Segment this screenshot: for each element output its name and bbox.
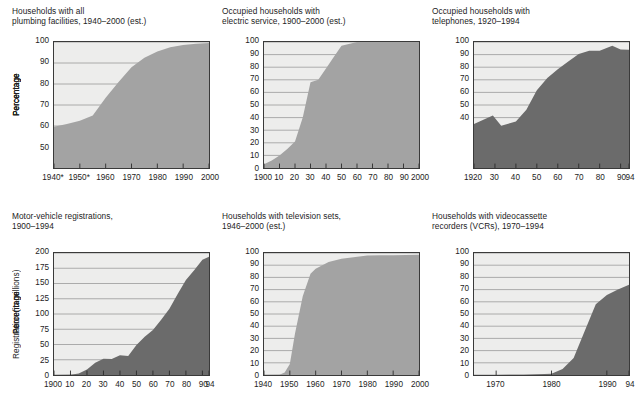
y-tick-label: 100 — [245, 248, 259, 256]
y-tick-label: 100 — [35, 37, 49, 45]
plot-area-electric — [263, 41, 420, 169]
x-tick-label: 30 — [490, 174, 499, 182]
x-tick-label: 80 — [384, 174, 393, 182]
y-tick-label: 90 — [460, 260, 469, 268]
y-tick-label: 60 — [250, 88, 259, 96]
chart-title-plumbing: Households with all plumbing facilities,… — [12, 6, 212, 27]
y-tick-label: 40 — [250, 114, 259, 122]
x-tick-label: 1900 — [254, 174, 272, 182]
x-tick-label: 60 — [553, 174, 562, 182]
y-tick-label: 70 — [460, 75, 469, 83]
chart-title-telephones: Occupied households with telephones, 192… — [432, 6, 632, 27]
y-tick-label: 50 — [460, 310, 469, 318]
y-tick-label: 20 — [460, 347, 469, 355]
chart-title-television: Households with television sets, 1946–20… — [222, 211, 422, 232]
plot-area-motor-vehicles — [53, 252, 210, 376]
y-tick-label: 25 — [40, 356, 49, 364]
y-ticks-telephones: 405060708090100 — [437, 41, 469, 169]
y-tick-label: 70 — [40, 101, 49, 109]
x-tick-label: 1970 — [332, 381, 350, 389]
y-tick-label: 40 — [460, 114, 469, 122]
y-tick-label: 30 — [250, 126, 259, 134]
x-tick-label: 80 — [596, 174, 605, 182]
x-tick-label: 1970 — [486, 381, 504, 389]
x-tick-label: 2000 — [411, 381, 429, 389]
y-tick-label: 70 — [250, 285, 259, 293]
y-tick-label: 90 — [460, 50, 469, 58]
x-tick-label: 94 — [625, 381, 634, 389]
chart-title-vcr: Households with videocassette recorders … — [432, 211, 632, 232]
y-ticks-motor-vehicles: 0255075100125150175200 — [17, 252, 49, 376]
y-tick-label: 60 — [460, 88, 469, 96]
x-tick-label: 70 — [575, 174, 584, 182]
x-tick-label: 1970 — [122, 174, 140, 182]
x-tick-label: 1990 — [598, 381, 616, 389]
x-tick-label: 30 — [99, 381, 108, 389]
y-ticks-electric: 0102030405060708090100 — [227, 41, 259, 169]
y-tick-label: 80 — [250, 62, 259, 70]
x-tick-label: 1940* — [42, 174, 63, 182]
x-tick-label: 40 — [115, 381, 124, 389]
x-tick-label: 1980 — [359, 381, 377, 389]
x-tick-label: 10 — [274, 174, 283, 182]
y-tick-label: 60 — [40, 122, 49, 130]
plot-area-vcr — [473, 252, 630, 376]
y-tick-label: 80 — [460, 273, 469, 281]
chart-title-motor-vehicles: Motor-vehicle registrations, 1900–1994 — [12, 211, 212, 232]
x-tick-label: 20 — [82, 381, 91, 389]
x-tick-label: 40 — [321, 174, 330, 182]
y-tick-label: 125 — [35, 294, 49, 302]
x-tick-label: 30 — [306, 174, 315, 182]
y-tick-label: 90 — [250, 50, 259, 58]
x-tick-label: 1940 — [254, 381, 272, 389]
y-tick-label: 70 — [250, 75, 259, 83]
y-tick-label: 90 — [250, 260, 259, 268]
y-tick-label: 50 — [40, 341, 49, 349]
y-tick-label: 100 — [455, 37, 469, 45]
y-tick-label: 0 — [254, 165, 259, 173]
x-tick-label: 1990 — [385, 381, 403, 389]
x-tick-label: 1920 — [464, 174, 482, 182]
y-tick-label: 80 — [250, 273, 259, 281]
x-tick-label: 2000 — [411, 174, 429, 182]
x-tick-label: 2000 — [201, 174, 219, 182]
x-tick-label: 70 — [165, 381, 174, 389]
x-tick-label: 40 — [511, 174, 520, 182]
y-tick-label: 0 — [254, 372, 259, 380]
y-tick-label: 90 — [40, 58, 49, 66]
y-tick-label: 50 — [250, 101, 259, 109]
x-tick-label: 60 — [353, 174, 362, 182]
y-tick-label: 60 — [250, 297, 259, 305]
y-tick-label: 0 — [464, 372, 469, 380]
x-tick-label: 1990 — [175, 174, 193, 182]
y-ticks-television: 0102030405060708090100 — [227, 252, 259, 376]
x-tick-label: 1900 — [44, 381, 62, 389]
x-tick-label: 1960 — [306, 381, 324, 389]
plot-area-telephones — [473, 41, 630, 169]
x-tick-label: 1980 — [149, 174, 167, 182]
y-tick-label: 60 — [460, 297, 469, 305]
x-tick-label: 60 — [149, 381, 158, 389]
y-tick-label: 100 — [35, 310, 49, 318]
chart-title-electric: Occupied households with electric servic… — [222, 6, 422, 27]
plot-area-television — [263, 252, 420, 376]
x-tick-label: 1960 — [96, 174, 114, 182]
y-tick-label: 30 — [250, 335, 259, 343]
y-tick-label: 80 — [40, 80, 49, 88]
y-tick-label: 10 — [250, 152, 259, 160]
figure-sheet: Households with all plumbing facilities,… — [0, 0, 644, 396]
x-tick-label: 94 — [625, 174, 634, 182]
y-tick-label: 50 — [460, 101, 469, 109]
y-tick-label: 20 — [250, 347, 259, 355]
x-tick-label: 50 — [337, 174, 346, 182]
y-tick-label: 75 — [40, 325, 49, 333]
x-tick-label: 50 — [532, 174, 541, 182]
x-tick-label: 10 — [65, 381, 74, 389]
y-tick-label: 20 — [250, 139, 259, 147]
y-tick-label: 175 — [35, 263, 49, 271]
x-tick-label: 1950* — [68, 174, 89, 182]
y-tick-label: 30 — [460, 335, 469, 343]
x-tick-label: 70 — [368, 174, 377, 182]
x-tick-label: 50 — [132, 381, 141, 389]
y-tick-label: 200 — [35, 248, 49, 256]
